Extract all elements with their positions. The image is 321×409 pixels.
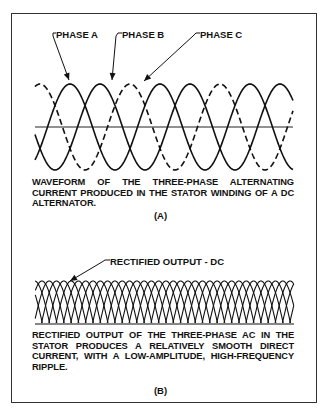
rectified-pulse: [253, 281, 283, 323]
rectified-pulse: [63, 281, 93, 323]
caption-b: RECTIFIED OUTPUT OF THE THREE-PHASE AC I…: [32, 330, 294, 372]
rectified-pulse: [239, 281, 269, 323]
rectified-pulse: [78, 281, 108, 323]
panel-label-a: (A): [0, 210, 321, 221]
rectified-pulse: [115, 281, 145, 323]
rectified-pulse: [56, 281, 86, 323]
label-phase-c: PHASE C: [200, 29, 242, 40]
rectified-pulse: [42, 281, 72, 323]
rectified-pulse: [49, 281, 79, 323]
leader-phase-b: [112, 33, 122, 80]
rectified-pulse: [71, 281, 101, 323]
rectified-pulse: [173, 281, 203, 323]
rectified-pulse: [107, 281, 137, 323]
leader-phase-b-arrowhead-icon: [110, 73, 116, 80]
leader-phase-a: [53, 33, 69, 80]
rectified-pulse: [93, 281, 123, 323]
rectified-pulse: [144, 281, 174, 323]
rectified-pulse: [188, 281, 218, 323]
rectified-pulse: [180, 281, 210, 323]
rectified-pulse: [195, 281, 225, 323]
rectified-pulse: [100, 281, 130, 323]
rectified-pulse: [151, 281, 181, 323]
leader-phase-a-arrowhead-icon: [64, 72, 70, 80]
rectified-pulse: [158, 281, 188, 323]
rectified-pulse: [217, 281, 247, 323]
label-phase-a: PHASE A: [56, 29, 98, 40]
rectified-pulse: [85, 281, 115, 323]
rectified-pulse: [261, 281, 291, 323]
label-phase-b: PHASE B: [122, 29, 164, 40]
rectified-pulse: [129, 281, 159, 323]
rectified-pulse: [202, 281, 232, 323]
rectified-pulse: [224, 281, 254, 323]
rectified-pulse: [231, 281, 261, 323]
caption-a: WAVEFORM OF THE THREE-PHASE ALTERNATING …: [32, 177, 294, 209]
rectified-pulse: [166, 281, 196, 323]
leader-phase-c: [144, 33, 200, 81]
panel-label-b: (B): [0, 385, 321, 396]
rectified-pulse: [35, 295, 42, 323]
rectified-pulse: [246, 281, 276, 323]
rectified-pulse: [290, 306, 294, 323]
rectified-pulse: [136, 281, 166, 323]
leader-rectified-output-arrowhead-icon: [70, 275, 78, 281]
rectified-pulse: [122, 281, 152, 323]
rectified-pulse: [209, 281, 239, 323]
label-rectified-output: RECTIFIED OUTPUT - DC: [110, 256, 224, 267]
